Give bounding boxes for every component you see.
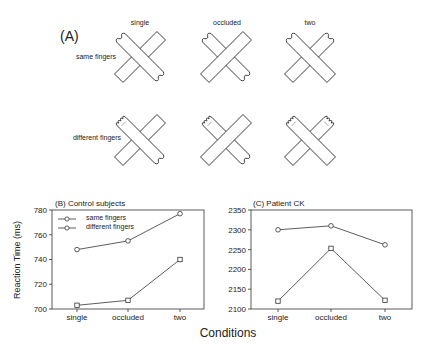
y-axis-label: Reaction Time (ms) <box>12 221 22 299</box>
legend-different-fingers: different fingers <box>86 223 134 230</box>
plot-c-xtick-single: single <box>268 313 289 322</box>
plot-c-ytick: 2250 <box>228 246 246 255</box>
plot-c-ytick: 2200 <box>228 265 246 274</box>
plot-b-ytick: 700 <box>34 305 47 314</box>
column-label-two: two <box>305 19 316 26</box>
plot-b-xtick-single: single <box>67 313 88 322</box>
plot-b-xtick-occluded: occluded <box>112 313 144 322</box>
stimulus-diff-single <box>115 115 166 166</box>
column-label-single: single <box>131 19 149 26</box>
plot-b-ytick: 760 <box>34 231 47 240</box>
stimulus-diff-two <box>285 115 336 165</box>
column-label-occluded: occluded <box>213 19 241 26</box>
stimulus-diff-occluded <box>201 115 252 166</box>
plot-c-xtick-occluded: occluded <box>315 313 347 322</box>
plot-c-ytick: 2100 <box>228 305 246 314</box>
figure-canvas <box>0 0 431 355</box>
plot-c-ytick: 2150 <box>228 285 246 294</box>
x-axis-label: Conditions <box>200 326 257 340</box>
plot-b-xtick-two: two <box>174 313 186 322</box>
plot-b-ytick: 720 <box>34 280 47 289</box>
row-label-different-fingers: different fingers <box>73 134 121 141</box>
plot-b-title: (B) Control subjects <box>55 199 125 208</box>
row-label-same-fingers: same fingers <box>76 53 116 60</box>
plot-b-ytick: 740 <box>34 255 47 264</box>
plot-b-ytick: 780 <box>34 206 47 215</box>
legend-same-fingers: same fingers <box>86 214 126 221</box>
plot-c-xtick-two: two <box>379 313 391 322</box>
stimulus-same-occluded <box>201 32 252 83</box>
plot-c-title: (C) Patient CK <box>253 199 305 208</box>
plot-c-ytick: 2350 <box>228 206 246 215</box>
plot-c-ytick: 2300 <box>228 226 246 235</box>
stimulus-same-two <box>285 32 336 82</box>
stimulus-same-single <box>115 32 166 83</box>
panel-a-label: (A) <box>60 28 79 44</box>
plot-b-legend <box>58 217 76 230</box>
plot-c-series <box>276 224 388 304</box>
